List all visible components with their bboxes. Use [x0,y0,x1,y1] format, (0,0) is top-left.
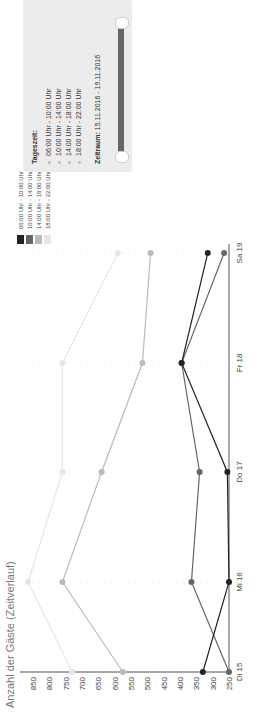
series-line [62,253,150,672]
legend-swatch [17,235,24,244]
tageszeit-options: 06:00 Uhr - 10:00 Uhr 10:00 Uhr - 14:00 … [45,88,85,164]
data-point[interactable] [224,469,230,475]
y-tick-label: 650 [94,676,103,690]
data-point[interactable] [148,250,154,256]
data-point[interactable] [221,250,227,256]
legend-label: 06:00 Uhr - 10:00 Uhr [18,171,24,229]
series-line [28,253,118,672]
x-tick-label: Sa 19 [235,242,244,263]
data-point[interactable] [59,579,65,585]
rotated-stage: Anzahl der Gäste (Zeitverlauf) 850800750… [0,0,258,714]
slider-start-handle[interactable] [115,151,129,163]
y-tick-label: 500 [143,676,152,690]
legend-label: 18:00 Uhr - 22:00 Uhr [45,171,51,229]
data-point[interactable] [99,469,105,475]
x-tick-label: Fr 18 [235,353,244,372]
series-line [182,253,229,672]
legend-swatch [26,235,33,244]
y-tick-label: 400 [176,676,185,690]
legend-swatch [44,235,51,244]
legend-item: 14:00 Uhr - 18:00 Uhr [34,171,43,244]
data-point[interactable] [25,579,31,585]
data-point[interactable] [205,250,211,256]
data-point[interactable] [59,360,65,366]
y-tick-label: 550 [127,676,136,690]
tageszeit-option[interactable]: 06:00 Uhr - 10:00 Uhr [45,88,55,164]
y-tick-label: 450 [160,676,169,690]
date-range-slider[interactable] [118,22,124,158]
y-tick-label: 850 [29,676,38,690]
bullet-icon [58,161,61,164]
zeitraum-text: Zeitraum: 15.11.2016 - 19.11.2016 [94,55,101,164]
legend-item: 18:00 Uhr - 22:00 Uhr [43,171,52,244]
legend-label: 10:00 Uhr - 14:00 Uhr [27,171,33,229]
y-tick-label: 750 [62,676,71,690]
legend-label: 14:00 Uhr - 18:00 Uhr [36,171,42,229]
bullet-icon [48,161,51,164]
data-point[interactable] [226,579,232,585]
series-line [182,253,229,672]
data-point[interactable] [179,360,185,366]
data-point[interactable] [115,250,121,256]
line-chart: 850800750700650600550500450400350300250D… [0,174,258,714]
data-point[interactable] [69,669,75,675]
slider-end-handle[interactable] [115,17,129,29]
tageszeit-label: Tageszeit: [31,130,38,164]
data-point[interactable] [120,669,126,675]
filter-panel: Tageszeit: 06:00 Uhr - 10:00 Uhr 10:00 U… [23,0,132,172]
y-tick-label: 700 [78,676,87,690]
data-point[interactable] [197,469,203,475]
data-point[interactable] [59,469,65,475]
legend-item: 06:00 Uhr - 10:00 Uhr [16,171,25,244]
x-tick-label: Do 17 [235,461,244,483]
tageszeit-option[interactable]: 10:00 Uhr - 14:00 Uhr [55,88,65,164]
legend: 06:00 Uhr - 10:00 Uhr10:00 Uhr - 14:00 U… [16,171,52,244]
x-tick-label: Mi 16 [235,572,244,592]
data-point[interactable] [200,669,206,675]
bullet-icon [78,161,81,164]
y-tick-label: 800 [45,676,54,690]
y-tick-label: 350 [192,676,201,690]
data-point[interactable] [139,360,145,366]
data-point[interactable] [226,669,232,675]
y-tick-label: 300 [209,676,218,690]
x-tick-label: Di 15 [235,662,244,681]
y-tick-label: 600 [111,676,120,690]
legend-item: 10:00 Uhr - 14:00 Uhr [25,171,34,244]
tageszeit-option[interactable]: 14:00 Uhr - 18:00 Uhr [65,88,75,164]
legend-swatch [35,235,42,244]
data-point[interactable] [188,579,194,585]
y-tick-label: 250 [225,676,234,690]
bullet-icon [68,161,71,164]
tageszeit-option[interactable]: 18:00 Uhr - 22:00 Uhr [75,88,85,164]
